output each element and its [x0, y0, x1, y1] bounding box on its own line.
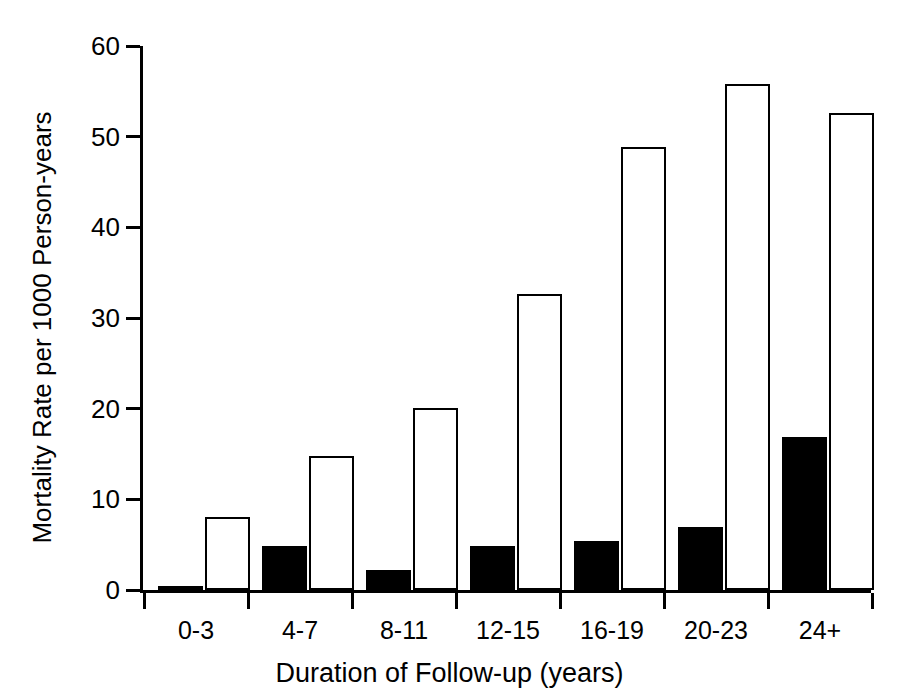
y-axis-line — [140, 46, 143, 590]
bar-open — [309, 456, 354, 590]
y-axis-tick — [126, 498, 140, 501]
bar-filled — [262, 546, 307, 590]
x-axis-tick — [247, 593, 250, 609]
bar-open — [621, 147, 666, 590]
bar-open — [829, 113, 874, 590]
y-axis-tick-label: 50 — [91, 121, 120, 152]
y-axis-tick — [126, 407, 140, 410]
bar-open — [413, 408, 458, 590]
plot-area: 0102030405060 0-34-78-1112-1516-1920-232… — [140, 46, 868, 590]
x-axis-tick-label: 8-11 — [380, 616, 428, 645]
bar-open — [205, 517, 250, 590]
bar-open — [517, 294, 562, 590]
y-axis-tick-label: 30 — [91, 303, 120, 334]
x-axis-tick-label: 16-19 — [580, 616, 644, 645]
x-axis-tick-label: 20-23 — [684, 616, 748, 645]
y-axis-tick — [126, 226, 140, 229]
y-axis-tick-label: 10 — [91, 484, 120, 515]
x-axis-tick — [871, 593, 874, 609]
bar-filled — [678, 527, 723, 590]
y-axis-tick-label: 0 — [106, 575, 120, 606]
y-axis-tick-label: 60 — [91, 31, 120, 62]
y-axis-tick — [126, 317, 140, 320]
x-axis-tick-label: 12-15 — [476, 616, 540, 645]
y-axis-tick — [126, 589, 140, 592]
x-axis-tick — [663, 593, 666, 609]
x-axis-tick-label: 0-3 — [178, 616, 214, 645]
x-axis-tick — [351, 593, 354, 609]
bar-filled — [470, 546, 515, 590]
x-axis-tick-label: 24+ — [799, 616, 841, 645]
y-axis-tick — [126, 45, 140, 48]
y-axis-tick — [126, 135, 140, 138]
x-axis-tick — [767, 593, 770, 609]
bar-filled — [574, 541, 619, 590]
y-axis-tick-label: 20 — [91, 393, 120, 424]
bar-open — [725, 84, 770, 590]
x-axis-title: Duration of Follow-up (years) — [0, 658, 899, 689]
x-axis-tick-label: 4-7 — [282, 616, 318, 645]
chart-figure: Mortality Rate per 1000 Person-years 010… — [0, 0, 899, 700]
x-axis-tick — [559, 593, 562, 609]
bar-filled — [782, 437, 827, 590]
y-axis-tick-label: 40 — [91, 212, 120, 243]
y-axis-title: Mortality Rate per 1000 Person-years — [27, 48, 58, 608]
bar-filled — [366, 570, 411, 590]
x-axis-tick — [455, 593, 458, 609]
x-axis-tick — [143, 593, 146, 609]
bar-filled — [158, 586, 203, 590]
